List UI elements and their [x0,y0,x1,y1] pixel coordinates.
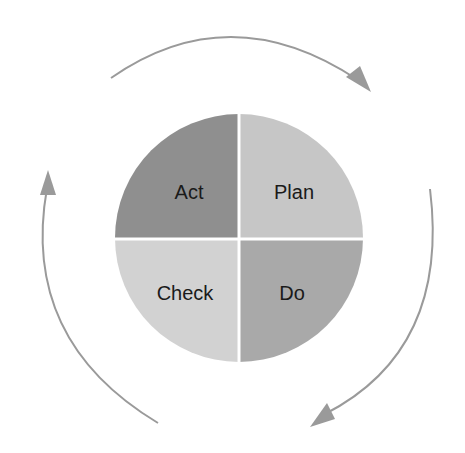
pdca-circle [111,110,367,366]
label-do: Do [279,282,305,304]
label-plan: Plan [274,181,314,203]
pdca-cycle-diagram: Act Plan Check Do [0,0,465,453]
right-arrowhead-icon [310,403,335,427]
quadrant-act [115,114,239,238]
top-arrow-arc [111,37,358,80]
label-act: Act [175,181,204,203]
top-arrowhead-icon [346,66,371,92]
quadrant-plan [239,114,363,238]
left-arrowhead-icon [40,170,56,195]
label-check: Check [157,282,215,304]
